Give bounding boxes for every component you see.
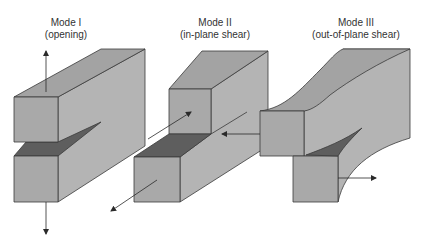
fracture-modes-diagram <box>0 0 423 243</box>
mode-1-lower-front-face <box>14 156 58 202</box>
mode-1-upper-front-face <box>14 97 58 142</box>
mode-3-lower-front-face <box>293 156 338 202</box>
mode-2-lower-front-face <box>134 157 180 202</box>
mode-3-specimen <box>260 49 410 202</box>
mode-3-upper-front-face <box>260 111 304 156</box>
mode-2-upper-front-face <box>169 89 211 134</box>
mode-1-specimen <box>14 49 145 202</box>
mode-2-specimen <box>134 51 268 202</box>
